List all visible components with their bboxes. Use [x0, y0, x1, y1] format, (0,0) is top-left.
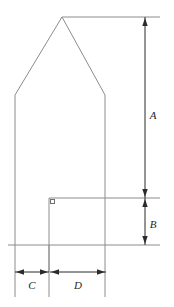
inner-ledge-group	[49, 198, 105, 272]
roof-slope-left	[15, 17, 62, 95]
roof-slope-right	[62, 17, 105, 95]
dimension-c-arrow-left-icon	[16, 269, 24, 274]
house-outline-group	[15, 17, 105, 245]
dimension-b-arrow-bottom-icon	[142, 236, 147, 244]
technical-drawing-svg: A B C D	[0, 0, 174, 307]
dimension-c-group: C	[15, 269, 49, 291]
dimension-b-arrow-top-icon	[142, 199, 147, 207]
right-angle-marker-icon	[51, 200, 55, 204]
dimension-d-arrow-left-icon	[51, 269, 59, 274]
extension-lines-group	[8, 17, 160, 297]
dimension-a-group: A	[142, 17, 156, 198]
dimension-a-arrow-top-icon	[142, 18, 147, 26]
dimension-b-group: B	[142, 198, 156, 245]
dimension-d-label: D	[73, 279, 82, 291]
dimension-b-label: B	[150, 218, 157, 230]
dimension-c-label: C	[28, 279, 36, 291]
dimension-d-group: D	[50, 269, 106, 291]
dimension-c-arrow-right-icon	[40, 269, 48, 274]
dimension-a-label: A	[149, 109, 157, 121]
dimension-a-arrow-bottom-icon	[142, 189, 147, 197]
dimension-d-arrow-right-icon	[97, 269, 105, 274]
technical-drawing-canvas: A B C D	[0, 0, 174, 307]
